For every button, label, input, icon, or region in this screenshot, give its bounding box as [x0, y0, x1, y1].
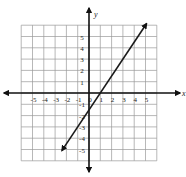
- y-tick-label: -4: [79, 135, 85, 143]
- coordinate-plane: -5-4-3-2-1012345-5-4-3-2-112345 x y: [0, 0, 186, 177]
- x-axis-label: x: [181, 89, 186, 98]
- y-tick-label: 4: [80, 45, 84, 53]
- y-tick-label: -5: [79, 147, 85, 155]
- x-tick-label: -4: [42, 96, 48, 104]
- y-tick-label: 3: [80, 56, 84, 64]
- x-tick-label: -3: [53, 96, 59, 104]
- y-tick-label: 2: [80, 67, 84, 75]
- x-tick-label: -2: [64, 96, 70, 104]
- x-tick-label: 3: [122, 96, 126, 104]
- x-tick-label: 5: [145, 96, 149, 104]
- x-tick-label: -5: [31, 96, 37, 104]
- y-tick-label: 1: [80, 79, 84, 87]
- axes: [4, 8, 180, 172]
- x-tick-label: 1: [100, 96, 104, 104]
- y-tick-label: -3: [79, 124, 85, 132]
- x-tick-label: 0: [88, 96, 92, 104]
- y-axis-label: y: [93, 10, 98, 19]
- x-tick-label: 4: [133, 96, 137, 104]
- y-tick-label: -1: [79, 101, 85, 109]
- x-tick-label: 2: [111, 96, 115, 104]
- y-tick-label: 5: [80, 34, 84, 42]
